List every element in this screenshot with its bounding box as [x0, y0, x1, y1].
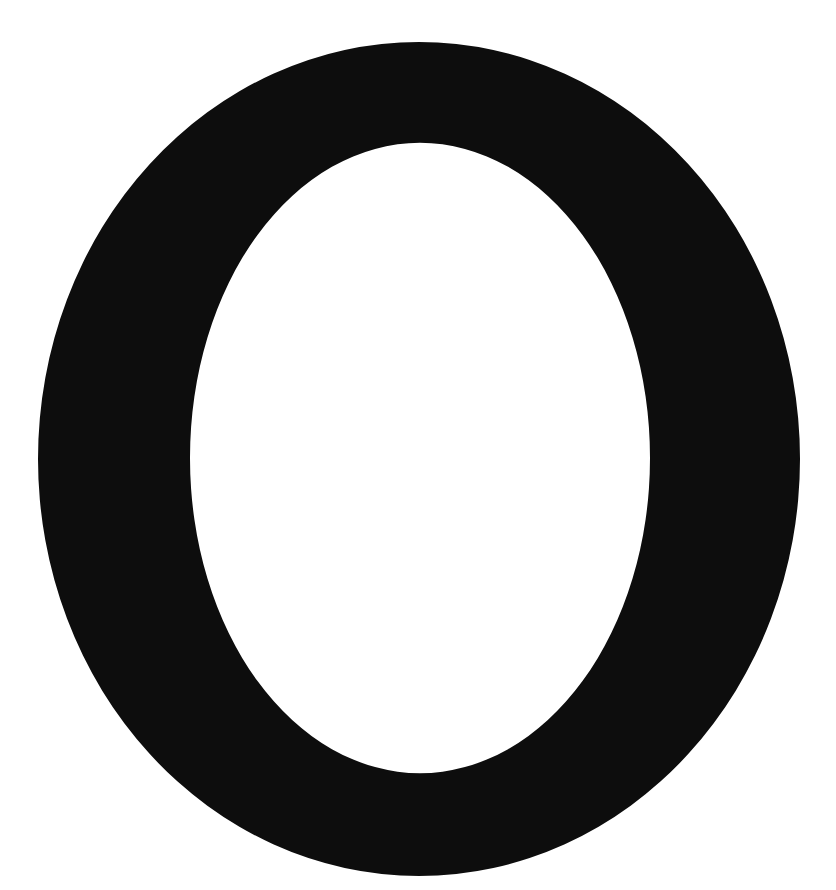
letter-o-shape	[38, 42, 800, 876]
letter-o-glyph	[0, 0, 836, 890]
canvas: O	[0, 0, 836, 890]
